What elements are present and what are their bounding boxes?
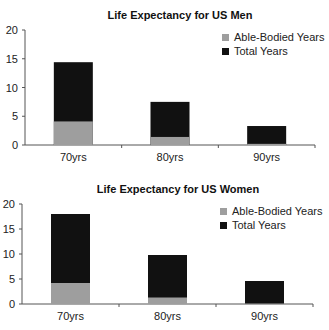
bar-able-bodied-years xyxy=(54,121,93,145)
x-tick-label: 90yrs xyxy=(251,310,278,322)
legend-label: Able-Bodied Years xyxy=(234,31,325,43)
bar-total-years xyxy=(247,126,286,145)
y-tick-label: 15 xyxy=(6,53,18,65)
chart-title: Life Expectancy for US Men xyxy=(108,9,253,21)
y-tick-label: 20 xyxy=(6,24,18,36)
charts-canvas: Life Expectancy for US Men 0510152070yrs… xyxy=(0,0,329,330)
y-tick-label: 5 xyxy=(12,110,18,122)
bar-able-bodied-years xyxy=(148,298,187,305)
x-tick-label: 70yrs xyxy=(60,151,87,163)
chart-women: Life Expectancy for US Women 0510152070y… xyxy=(3,183,323,322)
x-tick-label: 80yrs xyxy=(157,151,184,163)
legend-label: Total Years xyxy=(234,45,288,57)
y-tick-label: 0 xyxy=(12,139,18,151)
y-tick-label: 5 xyxy=(9,273,15,285)
y-tick-label: 15 xyxy=(3,223,15,235)
x-tick-label: 90yrs xyxy=(253,151,280,163)
y-tick-label: 10 xyxy=(6,82,18,94)
legend-swatch xyxy=(220,208,227,215)
bar-able-bodied-years xyxy=(51,283,90,304)
chart-title: Life Expectancy for US Women xyxy=(97,183,260,195)
x-tick-label: 80yrs xyxy=(154,310,181,322)
chart-men: Life Expectancy for US Men 0510152070yrs… xyxy=(6,9,325,163)
legend-label: Total Years xyxy=(232,219,286,231)
bar-total-years xyxy=(148,255,187,304)
legend-swatch xyxy=(222,34,229,41)
bar-able-bodied-years xyxy=(245,304,284,305)
legend-label: Able-Bodied Years xyxy=(232,205,323,217)
bar-able-bodied-years xyxy=(151,137,190,145)
y-tick-label: 20 xyxy=(3,198,15,210)
bar-able-bodied-years xyxy=(247,144,286,145)
legend-swatch xyxy=(222,48,229,55)
x-tick-label: 70yrs xyxy=(57,310,84,322)
y-tick-label: 10 xyxy=(3,248,15,260)
bar-total-years xyxy=(245,281,284,304)
y-tick-label: 0 xyxy=(9,298,15,310)
legend-swatch xyxy=(220,222,227,229)
